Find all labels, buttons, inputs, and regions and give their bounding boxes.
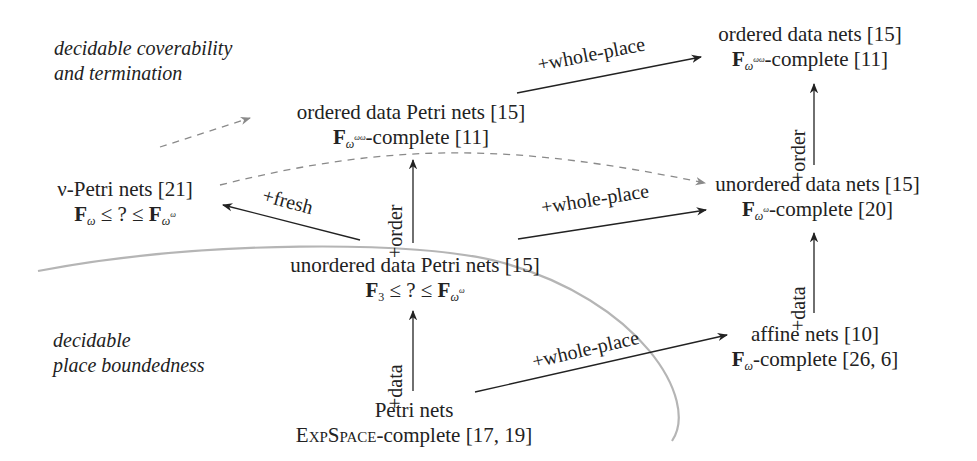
node-petri-nets: Petri nets ExpSpace-complete [17, 19] bbox=[272, 398, 556, 448]
node-title: ν-Petri nets [21] bbox=[30, 177, 220, 202]
edge-label-order-right: +order bbox=[787, 130, 810, 183]
region-label-boundedness: decidable place boundedness bbox=[53, 328, 205, 378]
node-title: unordered data nets [15] bbox=[685, 172, 950, 197]
node-reference: -complete [17, 19] bbox=[376, 423, 532, 447]
dashed-edge-nu-to-unordered-data-nets bbox=[220, 153, 705, 185]
edge-label-affine-data: +data bbox=[787, 286, 810, 331]
edge-label-order-left: +order bbox=[384, 205, 407, 258]
node-nu-petri-nets: ν-Petri nets [21] Fω ≤ ? ≤ Fωω bbox=[30, 177, 220, 234]
node-complexity: F3 ≤ ? ≤ Fωω bbox=[245, 278, 585, 310]
node-complexity: Fω ≤ ? ≤ Fωω bbox=[30, 202, 220, 234]
node-title: ordered data nets [15] bbox=[690, 22, 930, 47]
node-ordered-data-nets: ordered data nets [15] Fωωω-complete [11… bbox=[690, 22, 930, 79]
node-unordered-data-nets: unordered data nets [15] Fωω-complete [2… bbox=[685, 172, 950, 229]
node-ordered-data-petri-nets: ordered data Petri nets [15] Fωωω-comple… bbox=[256, 100, 566, 157]
region-label-line: place boundedness bbox=[53, 353, 205, 378]
region-label-line: decidable bbox=[53, 328, 205, 353]
node-title: unordered data Petri nets [15] bbox=[245, 253, 585, 278]
node-complexity: Fωωω-complete [11] bbox=[256, 125, 566, 157]
node-title: affine nets [10] bbox=[705, 322, 925, 347]
node-title: Petri nets bbox=[272, 398, 556, 423]
dashed-edge-nu-to-ordered-data-petri bbox=[160, 118, 250, 147]
complexity-class: ExpSpace bbox=[296, 423, 377, 447]
node-affine-nets: affine nets [10] Fω-complete [26, 6] bbox=[705, 322, 925, 379]
node-complexity: Fωωω-complete [11] bbox=[690, 47, 930, 79]
node-unordered-data-petri-nets: unordered data Petri nets [15] F3 ≤ ? ≤ … bbox=[245, 253, 585, 310]
node-complexity: Fω-complete [26, 6] bbox=[705, 347, 925, 379]
node-complexity: Fωω-complete [20] bbox=[685, 197, 950, 229]
region-label-coverability: decidable coverability and termination bbox=[54, 36, 232, 86]
region-label-line: decidable coverability bbox=[54, 36, 232, 61]
node-title: ordered data Petri nets [15] bbox=[256, 100, 566, 125]
region-label-line: and termination bbox=[54, 61, 232, 86]
edge-label-petri-data: +data bbox=[384, 364, 407, 409]
